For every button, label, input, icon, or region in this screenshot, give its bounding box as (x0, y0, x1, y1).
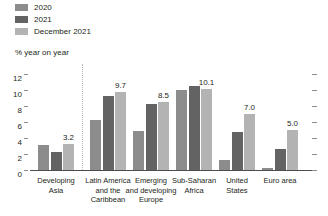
y-axis-tick-mark (24, 138, 28, 139)
bar-value-label: 10.1 (199, 78, 215, 87)
chart-legend: 20202021December 2021 (15, 2, 215, 38)
bar (103, 96, 114, 170)
bar (232, 132, 243, 170)
plot-area: 0246810123.29.78.510.17.05.0 (30, 64, 313, 171)
bar (158, 102, 169, 170)
y-axis-tick-label: 8 (18, 106, 22, 107)
y-axis-tick-mark (24, 74, 28, 75)
x-axis-category-label: Euro area (248, 176, 312, 186)
y-axis-tick-mark-right (312, 170, 317, 171)
bar (146, 104, 157, 170)
y-axis-tick-mark (24, 106, 28, 107)
bar (38, 145, 49, 170)
bar (287, 130, 298, 170)
bar-group: 10.1 (176, 63, 218, 170)
legend-item-label: December 2021 (34, 26, 91, 37)
y-axis-tick-mark-right (312, 138, 317, 139)
legend-item: 2020 (15, 2, 215, 13)
group-divider (82, 64, 83, 170)
y-axis-tick-mark-right (312, 122, 317, 123)
bar (275, 149, 286, 170)
y-axis-tick-mark (24, 154, 28, 155)
y-axis-tick-label: 12 (13, 74, 22, 75)
x-axis-category-label-line: States (205, 186, 269, 196)
y-axis-tick-label: 2 (18, 154, 22, 155)
legend-swatch (15, 16, 28, 23)
chart-figure: 20202021December 2021 % year on year 024… (0, 0, 328, 216)
bar-group: 7.0 (219, 63, 261, 170)
y-axis-tick-mark-right (312, 74, 317, 75)
y-axis-tick-label: 10 (13, 90, 22, 91)
bar-group: 8.5 (133, 63, 175, 170)
y-axis-tick-label: 0 (18, 170, 22, 171)
x-axis-category-label-line: Euro area (248, 176, 312, 186)
x-axis-category-label-line: Europe (119, 195, 183, 205)
bar-value-label: 3.2 (63, 133, 74, 142)
bar (201, 89, 212, 170)
legend-swatch (15, 28, 28, 35)
bar (219, 160, 230, 170)
y-axis-title: % year on year (15, 48, 69, 57)
bar (189, 86, 200, 170)
bar (90, 120, 101, 170)
bar-group: 3.2 (38, 63, 80, 170)
y-axis-tick-mark (24, 90, 28, 91)
bar-value-label: 8.5 (158, 91, 169, 100)
y-axis-tick-mark-right (312, 154, 317, 155)
bar (63, 144, 74, 170)
y-axis-tick-mark (24, 170, 28, 171)
y-axis-tick-mark-right (312, 90, 317, 91)
bar (262, 168, 273, 170)
bar (133, 131, 144, 170)
bar-value-label: 9.7 (115, 81, 126, 90)
bar (115, 92, 126, 170)
bar (176, 90, 187, 170)
bar-value-label: 7.0 (244, 103, 255, 112)
bar-group: 9.7 (90, 63, 132, 170)
legend-item: December 2021 (15, 26, 215, 37)
bar-group: 5.0 (262, 63, 304, 170)
y-axis-tick-label: 6 (18, 122, 22, 123)
bar-value-label: 5.0 (287, 119, 298, 128)
legend-item-label: 2020 (34, 2, 52, 13)
y-axis-tick-mark-right (312, 106, 317, 107)
y-axis-tick-label: 4 (18, 138, 22, 139)
y-axis-tick-mark (24, 122, 28, 123)
bar (51, 152, 62, 170)
bar (244, 114, 255, 170)
legend-item-label: 2021 (34, 14, 52, 25)
x-axis-baseline (30, 170, 313, 171)
legend-item: 2021 (15, 14, 215, 25)
legend-swatch (15, 4, 28, 11)
